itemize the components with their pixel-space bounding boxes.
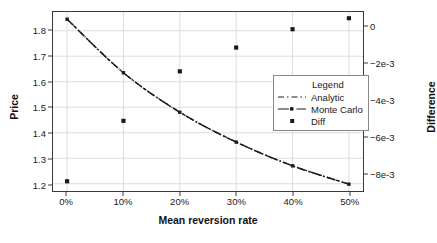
legend-label-analytic: Analytic [307,92,344,103]
x-axis-tick-label: 0% [59,196,73,207]
legend-item-diff: Diff [277,115,363,127]
x-axis-tick-label: 40% [284,196,303,207]
y-axis-left-tick-mark [48,55,52,56]
x-axis-ticklabels: 0%10%20%30%40%50% [52,196,364,210]
y-axis-left-tick-label: 1.6 [33,76,46,87]
legend-label-diff: Diff [307,116,325,127]
y-axis-left-tick-mark [48,184,52,185]
legend-item-monte-carlo: Monte Carlo [277,103,363,115]
y-axis-left-tick-label: 1.8 [33,24,46,35]
dashed-line-icon [277,91,307,103]
y-axis-left-tick-label: 1.2 [33,179,46,190]
y-axis-left-tick-mark [48,81,52,82]
x-axis-tick-label: 10% [113,196,132,207]
dash-dot-line-marker-icon [277,103,307,115]
y-axis-left-tick-label: 1.4 [33,128,46,139]
x-axis-tick-label: 50% [340,196,359,207]
square-marker-icon [277,115,307,127]
y-axis-left-tick-mark [48,107,52,108]
legend: Legend Analytic Monte Carlo Diff [273,75,369,131]
y-axis-left-tick-label: 1.3 [33,153,46,164]
y-axis-right-title: Difference [425,62,437,152]
y-axis-left-tick-mark [48,158,52,159]
legend-label-monte-carlo: Monte Carlo [307,104,363,115]
y-axis-left-title: Price [8,77,20,137]
y-axis-right-ticklabels: 0−2e-3−4e-3−6e-3−8e-3 [370,11,420,192]
x-axis-tick-label: 30% [227,196,246,207]
y-axis-left-tick-label: 1.5 [33,102,46,113]
y-axis-right-tick-label: −4e-3 [370,94,395,105]
y-axis-right-tick-label: 0 [370,20,375,31]
y-axis-right-tick-mark [364,136,368,137]
x-axis-title: Mean reversion rate [52,214,364,226]
y-axis-left-tick-label: 1.7 [33,50,46,61]
legend-title: Legend [293,79,363,90]
y-axis-right-tick-label: −8e-3 [370,168,395,179]
y-axis-left-tick-mark [48,133,52,134]
y-axis-left-ticklabels: 1.21.31.41.51.61.71.8 [0,11,46,192]
x-axis-tick-label: 20% [170,196,189,207]
y-axis-right-tick-mark [364,62,368,63]
y-axis-right-tick-label: −2e-3 [370,57,395,68]
y-axis-right-tick-mark [364,173,368,174]
legend-item-analytic: Analytic [277,91,363,103]
y-axis-right-tick-label: −6e-3 [370,131,395,142]
y-axis-right-tick-mark [364,25,368,26]
y-axis-left-tick-mark [48,29,52,30]
